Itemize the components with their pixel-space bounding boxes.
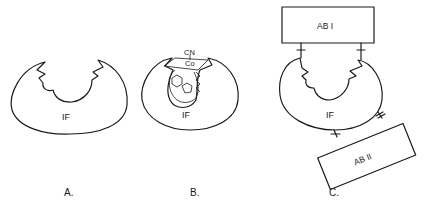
panel-caption: B. (190, 187, 199, 198)
panel-b: CN Co IF B. (142, 48, 238, 198)
panel-caption: A. (64, 187, 73, 198)
diagram-canvas: IF A. CN Co IF B. AB I IF AB II (0, 0, 430, 207)
panel-c: AB I IF AB II C. (280, 7, 416, 198)
panel-caption: C. (329, 187, 339, 198)
ribose-ring (182, 83, 192, 93)
antibody-2-label: AB II (352, 151, 373, 167)
intrinsic-factor-shape (11, 60, 127, 134)
antibody-2-group: AB II (318, 123, 416, 189)
panel-a: IF A. (11, 60, 127, 198)
cobalt-label: Co (185, 59, 195, 68)
protein-label: IF (62, 112, 71, 122)
benzimidazole-ring (172, 75, 182, 87)
antibody-1-label: AB I (317, 21, 333, 31)
protein-label: IF (182, 110, 191, 120)
protein-label: IF (326, 110, 335, 120)
cyanide-label: CN (184, 48, 195, 57)
cobalamin-body (169, 70, 198, 103)
